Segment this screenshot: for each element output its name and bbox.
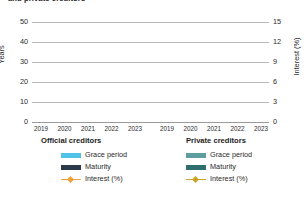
- legend-label-private-interest: Interest (%): [210, 173, 248, 185]
- swatch-maturity-official: [61, 165, 81, 170]
- gridline-50: [32, 22, 269, 23]
- legend-label-private-maturity: Maturity: [210, 161, 236, 173]
- xtick-private-2020: 2020: [183, 124, 197, 134]
- x-axis-labels: 2019 2020 2021 2022 2023 2019 2020 2021 …: [32, 124, 269, 134]
- y-axis-title-left: Years: [0, 40, 6, 70]
- legend-items-official: Grace period Maturity Interest (%): [61, 149, 127, 185]
- xtick-private-2023: 2023: [254, 124, 268, 134]
- legend-label-official-grace-period: Grace period: [85, 149, 127, 161]
- xtick-official-2019: 2019: [34, 124, 48, 134]
- ytick-left-10: 10: [6, 98, 28, 105]
- ytick-left-50: 50: [6, 18, 28, 25]
- legend-label-private-grace-period: Grace period: [210, 149, 252, 161]
- xtick-private-2022: 2022: [230, 124, 244, 134]
- xtick-private-2019: 2019: [160, 124, 174, 134]
- ytick-right-15: 15: [273, 18, 295, 25]
- legend-official-creditors: Official creditors Grace period Maturity…: [41, 136, 127, 185]
- swatch-grace-period-private: [186, 153, 206, 158]
- chart-figure: and private creditors 50 40 30 20 10 0 1…: [0, 0, 307, 202]
- swatch-grace-period-official: [61, 153, 81, 158]
- legend-item-official-interest[interactable]: Interest (%): [61, 173, 127, 185]
- xtick-private-2021: 2021: [207, 124, 221, 134]
- ytick-left-20: 20: [6, 78, 28, 85]
- swatch-interest-private: [186, 176, 206, 183]
- xtick-official-2023: 2023: [128, 124, 142, 134]
- gridline-20: [32, 82, 269, 83]
- gridline-40: [32, 42, 269, 43]
- x-axis-panel-private: 2019 2020 2021 2022 2023: [160, 124, 268, 134]
- legend-item-private-interest[interactable]: Interest (%): [186, 173, 252, 185]
- legend-item-official-maturity[interactable]: Maturity: [61, 161, 127, 173]
- legend-label-official-interest: Interest (%): [85, 173, 123, 185]
- xtick-official-2020: 2020: [57, 124, 71, 134]
- chart-title: and private creditors: [8, 0, 248, 4]
- gridline-0: [32, 122, 269, 123]
- legend-items-private: Grace period Maturity Interest (%): [186, 149, 252, 185]
- ytick-right-0: 0: [273, 118, 295, 125]
- swatch-interest-official: [61, 176, 81, 183]
- legend-item-official-grace-period[interactable]: Grace period: [61, 149, 127, 161]
- legend-heading-official: Official creditors: [41, 136, 127, 146]
- xtick-official-2022: 2022: [104, 124, 118, 134]
- gridline-10: [32, 102, 269, 103]
- gridline-30: [32, 62, 269, 63]
- legend-label-official-maturity: Maturity: [85, 161, 111, 173]
- x-axis-panel-official: 2019 2020 2021 2022 2023: [34, 124, 142, 134]
- swatch-maturity-private: [186, 165, 206, 170]
- ytick-left-0: 0: [6, 118, 28, 125]
- plot-area: 50 40 30 20 10 0 15 12 9 6 3 0: [32, 22, 269, 122]
- legend-item-private-maturity[interactable]: Maturity: [186, 161, 252, 173]
- ytick-left-30: 30: [6, 58, 28, 65]
- legend-private-creditors: Private creditors Grace period Maturity …: [186, 136, 252, 185]
- legend-item-private-grace-period[interactable]: Grace period: [186, 149, 252, 161]
- ytick-right-3: 3: [273, 98, 295, 105]
- y-axis-title-right: Interest (%): [292, 34, 301, 80]
- chart-legends: Official creditors Grace period Maturity…: [0, 136, 307, 200]
- legend-heading-private: Private creditors: [186, 136, 252, 146]
- ytick-left-40: 40: [6, 38, 28, 45]
- xtick-official-2021: 2021: [81, 124, 95, 134]
